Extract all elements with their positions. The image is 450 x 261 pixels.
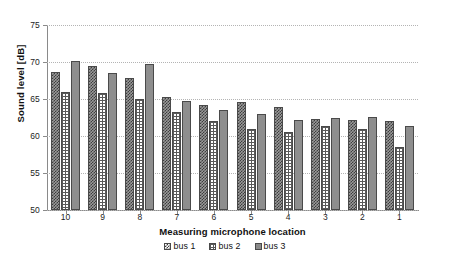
bar-bus-3-loc-8 [145,64,154,210]
bar-bus-2-loc-6 [209,121,218,210]
bar-bus-2-loc-3 [321,126,330,210]
legend-swatch-bus-2 [209,243,216,250]
y-axis-line [47,25,48,211]
y-axis-title: Sound level [dB] [15,24,26,144]
bar-group [199,25,228,210]
y-tick-mark [43,210,47,211]
bar-group [348,25,377,210]
bar-bus-2-loc-4 [284,132,293,210]
legend-label: bus 1 [173,241,195,251]
chart-legend: bus 1bus 2bus 3 [0,241,450,251]
bar-bus-3-loc-4 [294,120,303,210]
y-tick-mark [43,25,47,26]
legend-label: bus 3 [264,241,286,251]
x-tick-label: 3 [310,213,340,222]
bar-group [125,25,154,210]
bar-bus-3-loc-7 [182,101,191,210]
y-tick-mark [43,99,47,100]
legend-item-bus-1: bus 1 [164,241,195,251]
legend-label: bus 2 [218,241,240,251]
bar-bus-1-loc-4 [274,107,283,210]
bar-bus-1-loc-2 [348,120,357,210]
bar-bus-3-loc-5 [257,114,266,210]
bar-bus-2-loc-8 [135,99,144,210]
bar-group [385,25,414,210]
bar-group [88,25,117,210]
bar-bus-2-loc-5 [247,129,256,210]
bar-group [162,25,191,210]
y-tick-mark [43,136,47,137]
bar-bus-2-loc-2 [358,129,367,210]
bar-bus-2-loc-10 [61,92,70,210]
bar-bus-1-loc-5 [237,102,246,210]
bar-bus-3-loc-1 [405,126,414,210]
bar-bus-2-loc-1 [395,147,404,210]
y-tick-mark [43,173,47,174]
bar-bus-1-loc-10 [51,72,60,210]
bar-bus-2-loc-7 [172,112,181,210]
bar-bus-1-loc-1 [385,121,394,210]
bar-bus-1-loc-6 [199,105,208,210]
legend-swatch-bus-1 [164,243,171,250]
legend-item-bus-3: bus 3 [255,241,286,251]
bar-bus-3-loc-6 [219,110,228,210]
bar-chart-figure: 505560657075 10987654321 Sound level [dB… [0,0,450,261]
x-tick-label: 2 [347,213,377,222]
x-tick-label: 4 [273,213,303,222]
y-tick-label: 55 [14,169,40,178]
bar-bus-2-loc-9 [98,93,107,210]
bar-bus-3-loc-3 [331,118,340,211]
legend-swatch-bus-3 [255,243,262,250]
x-tick-label: 6 [199,213,229,222]
x-tick-label: 8 [125,213,155,222]
bar-bus-1-loc-9 [88,66,97,210]
bar-bus-3-loc-10 [71,61,80,210]
bar-bus-1-loc-8 [125,78,134,210]
bar-bus-3-loc-2 [368,117,377,210]
bar-bus-3-loc-9 [108,73,117,210]
x-tick-label: 1 [384,213,414,222]
x-tick-label: 9 [88,213,118,222]
x-tick-label: 7 [162,213,192,222]
x-tick-label: 10 [51,213,81,222]
bar-group [51,25,80,210]
bar-bus-1-loc-3 [311,119,320,210]
x-axis-title: Measuring microphone location [47,226,418,237]
y-tick-mark [43,62,47,63]
bar-group [311,25,340,210]
bar-bus-1-loc-7 [162,97,171,210]
y-tick-label: 50 [14,206,40,215]
x-tick-label: 5 [236,213,266,222]
bar-group [237,25,266,210]
bar-group [274,25,303,210]
legend-item-bus-2: bus 2 [209,241,240,251]
